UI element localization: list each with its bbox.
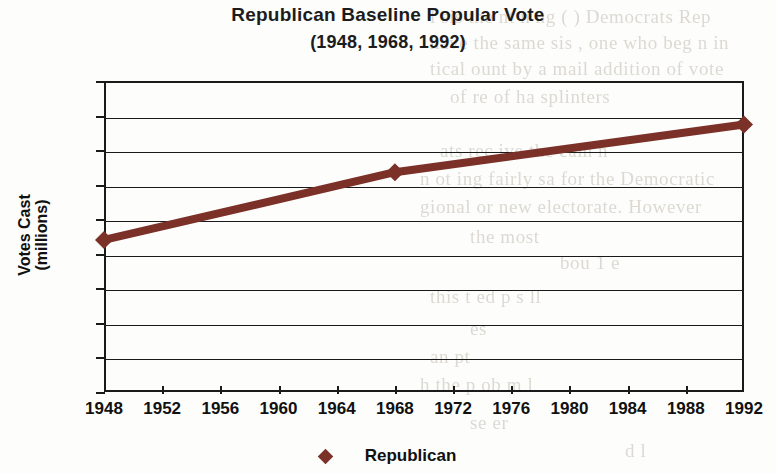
x-axis-tick-mark xyxy=(453,386,455,394)
x-axis-tick-label: 1960 xyxy=(260,399,298,419)
x-axis-tick-label: 1968 xyxy=(376,399,414,419)
plot-area xyxy=(104,81,744,392)
gridline xyxy=(106,359,742,360)
x-axis-tick-label: 1988 xyxy=(667,399,705,419)
x-axis-tick-mark xyxy=(279,386,281,394)
chart-title: Republican Baseline Popular Vote xyxy=(0,4,776,26)
y-axis-tick-mark xyxy=(96,357,105,359)
x-axis-tick-label: 1976 xyxy=(492,399,530,419)
y-axis-tick-mark xyxy=(96,288,105,290)
y-axis-title-line1: Votes Cast xyxy=(16,194,33,276)
x-axis-tick-mark xyxy=(337,386,339,394)
y-axis-tick-mark xyxy=(96,219,105,221)
gridline xyxy=(106,325,742,326)
chart-subtitle: (1948, 1968, 1992) xyxy=(0,32,776,53)
chart-figure: Republican Baseline Popular Vote (1948, … xyxy=(0,0,776,474)
y-axis-tick-mark xyxy=(96,254,105,256)
gridline xyxy=(106,152,742,153)
y-axis-title: Votes Cast (millions) xyxy=(6,150,60,320)
x-axis-tick-mark xyxy=(395,386,397,394)
gridline xyxy=(106,187,742,188)
x-axis-tick-mark xyxy=(569,386,571,394)
gridline xyxy=(106,290,742,291)
y-axis-tick-mark xyxy=(96,185,105,187)
y-axis-tick-mark xyxy=(96,81,105,83)
y-axis-title-line2: (millions) xyxy=(33,199,50,270)
x-axis-tick-mark xyxy=(220,386,222,394)
gridline xyxy=(106,221,742,222)
y-axis-tick-mark xyxy=(96,116,105,118)
x-axis-tick-label: 1992 xyxy=(725,399,763,419)
x-axis-tick-mark xyxy=(511,386,513,394)
x-axis-tick-mark xyxy=(686,386,688,394)
x-axis-tick-label: 1980 xyxy=(551,399,589,419)
y-axis-tick-mark xyxy=(96,323,105,325)
legend-item: Republican xyxy=(320,446,457,466)
chart-legend: Republican xyxy=(0,446,776,466)
x-axis-tick-label: 1972 xyxy=(434,399,472,419)
x-axis-tick-label: 1952 xyxy=(143,399,181,419)
gridline xyxy=(106,256,742,257)
y-axis-tick-mark xyxy=(96,150,105,152)
x-axis-tick-label: 1984 xyxy=(609,399,647,419)
x-axis-tick-label: 1964 xyxy=(318,399,356,419)
x-axis-tick-label: 1948 xyxy=(85,399,123,419)
legend-diamond-icon xyxy=(317,448,333,464)
gridline xyxy=(106,118,742,119)
y-axis-tick-mark xyxy=(96,392,105,394)
x-axis-tick-label: 1956 xyxy=(201,399,239,419)
x-axis-tick-mark xyxy=(162,386,164,394)
legend-label: Republican xyxy=(365,446,457,466)
x-axis-tick-mark xyxy=(628,386,630,394)
